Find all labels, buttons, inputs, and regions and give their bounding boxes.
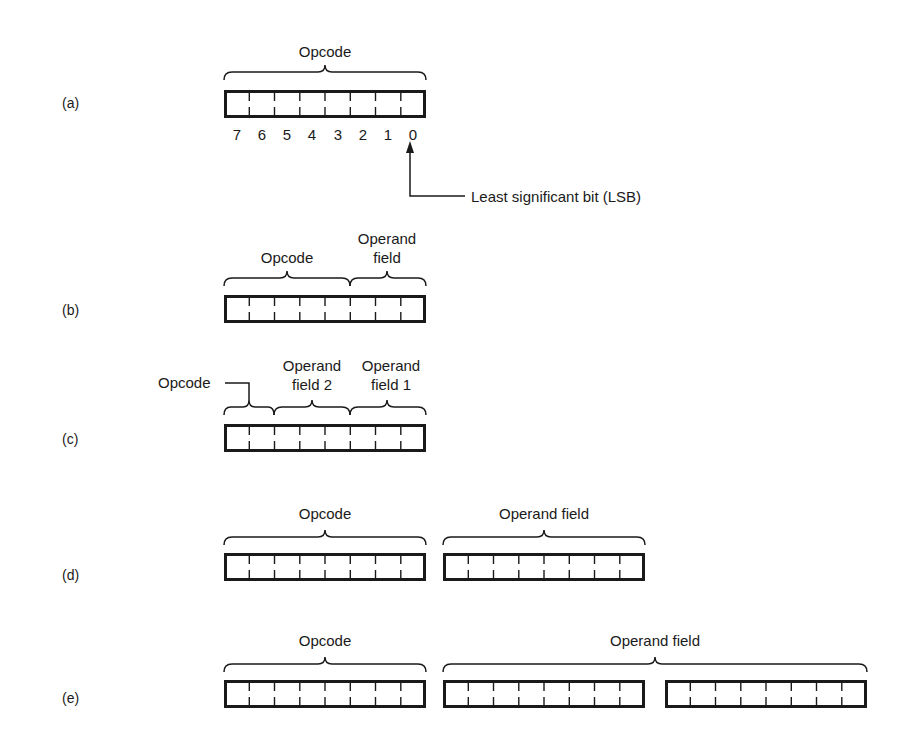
brace-operand-d	[443, 530, 645, 545]
field-label-operand-b-line1: Operand	[358, 231, 416, 246]
register-b	[226, 297, 425, 322]
field-label-opcode-b: Opcode	[261, 250, 314, 265]
field-label-opcode-d: Opcode	[299, 506, 352, 521]
register-e-opcode	[226, 682, 425, 707]
brace-operand-e	[443, 657, 867, 672]
field-label-operand2-c-line1: Operand	[283, 358, 341, 373]
field-label-operand2-c-line2: field 2	[292, 377, 332, 392]
bit-number: 4	[308, 126, 316, 143]
field-label-operand1-c-line1: Operand	[362, 358, 420, 373]
bit-number: 3	[334, 126, 342, 143]
brace-operand1-c	[350, 400, 426, 415]
lsb-annotation: Least significant bit (LSB)	[471, 189, 641, 204]
field-label-opcode-a: Opcode	[299, 44, 352, 59]
brace-opcode-d	[224, 530, 426, 545]
field-label-opcode-c: Opcode	[158, 375, 211, 390]
bit-number: 6	[258, 126, 266, 143]
brace-operand2-c	[274, 400, 350, 415]
instruction-format-diagram	[0, 0, 904, 746]
brace-operand-b	[350, 271, 426, 286]
brace-opcode-e	[224, 657, 426, 672]
register-e-operand-1	[445, 682, 644, 707]
register-d-operand	[445, 555, 644, 580]
field-label-operand-b-line2: field	[373, 250, 401, 265]
brace-opcode-c	[224, 400, 274, 415]
register-c	[226, 426, 425, 451]
field-label-opcode-e: Opcode	[299, 633, 352, 648]
bit-number: 2	[359, 126, 367, 143]
register-d-opcode	[226, 555, 425, 580]
bit-number: 0	[409, 126, 417, 143]
field-label-operand-e: Operand field	[610, 633, 700, 648]
opcode-leader-c	[225, 383, 249, 400]
field-label-operand1-c-line2: field 1	[371, 377, 411, 392]
bit-numbers-a: 7 6 5 4 3 2 1 0	[224, 126, 426, 144]
bit-number: 5	[283, 126, 291, 143]
lsb-arrow-line	[410, 150, 465, 196]
register-e-operand-2	[667, 682, 866, 707]
bit-number: 1	[384, 126, 392, 143]
brace-opcode-b	[224, 271, 350, 286]
register-a	[226, 92, 425, 117]
bit-number: 7	[233, 126, 241, 143]
field-label-operand-d: Operand field	[499, 506, 589, 521]
brace-opcode-a	[224, 65, 426, 80]
